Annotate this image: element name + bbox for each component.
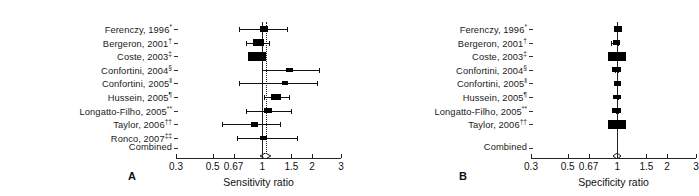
study-label-marker: ‡: [523, 50, 527, 57]
ci-cap-right: [291, 109, 292, 114]
study-label: Coste, 2003‡: [117, 50, 172, 62]
x-axis-tick: [262, 154, 263, 158]
study-label: Taylor, 2006††: [113, 118, 172, 130]
x-axis: [531, 158, 696, 159]
ci-cap-left: [239, 27, 240, 32]
x-axis-tick: [341, 154, 342, 158]
study-label: Hussein, 2005¶: [108, 91, 172, 103]
row-tick: [529, 124, 533, 125]
ci-cap-right: [269, 41, 270, 46]
row-tick: [174, 56, 178, 57]
row-tick: [529, 43, 533, 44]
x-axis-tick-label: 1.5: [639, 161, 653, 172]
row-tick: [529, 29, 533, 30]
x-axis: [176, 158, 341, 159]
row-tick: [529, 83, 533, 84]
ci-cap-right: [280, 122, 281, 127]
study-label-marker: ††: [520, 118, 527, 125]
study-label: Longatto-Filho, 2005**: [435, 105, 527, 117]
row-tick-combined: [529, 148, 533, 149]
row-tick: [174, 111, 178, 112]
study-label-marker: ‡: [168, 50, 172, 57]
study-label-text: Longatto-Filho, 2005: [80, 107, 167, 117]
row-tick: [529, 111, 533, 112]
study-label: Confortini, 2005‖: [457, 77, 527, 89]
panel-letter: A: [128, 170, 136, 182]
x-axis-tick: [213, 154, 214, 158]
study-label-marker: **: [522, 105, 527, 112]
study-label-marker: †: [523, 37, 527, 44]
study-label-text: Confortini, 2004: [101, 66, 168, 76]
study-label-marker: ¶: [168, 91, 172, 98]
x-axis-tick: [176, 154, 177, 158]
study-label-text: Bergeron, 2001: [458, 39, 524, 49]
effect-size-box: [614, 81, 621, 86]
ci-cap-right: [319, 68, 320, 73]
x-axis-tick: [312, 154, 313, 158]
study-label-marker: ‡‡: [165, 132, 172, 139]
study-label: Ferenczy, 1996*: [105, 23, 172, 35]
x-axis-tick: [667, 154, 668, 158]
x-axis-tick-label: 1: [259, 161, 265, 172]
study-label-text: Bergeron, 2001: [103, 39, 169, 49]
study-label-text: Hussein, 2005: [108, 93, 169, 103]
study-label-text: Coste, 2003: [117, 52, 168, 62]
study-label-text: Longatto-Filho, 2005: [435, 107, 522, 117]
forest-plot-figure: Ferenczy, 1996*Bergeron, 2001†Coste, 200…: [0, 0, 699, 196]
study-label: Bergeron, 2001†: [458, 37, 527, 49]
x-axis-tick-label: 0.3: [169, 161, 183, 172]
study-label-marker: ‖: [169, 77, 172, 84]
effect-size-box: [286, 68, 293, 73]
panel-letter: B: [459, 170, 467, 182]
study-label-marker: †: [168, 37, 172, 44]
combined-diamond: [613, 145, 621, 151]
effect-size-box: [253, 39, 265, 46]
study-label-text: Hussein, 2005: [463, 93, 524, 103]
study-label: Longatto-Filho, 2005**: [80, 105, 172, 117]
effect-size-box: [271, 94, 281, 100]
study-label-marker: §: [523, 64, 527, 71]
x-axis-tick-label: 0.5: [206, 161, 220, 172]
effect-size-box: [248, 52, 266, 61]
effect-size-box: [613, 40, 620, 44]
study-label: Taylor, 2006††: [468, 118, 527, 130]
row-tick: [174, 43, 178, 44]
study-label: Confortini, 2004§: [456, 64, 527, 76]
ci-cap-right: [289, 95, 290, 100]
x-axis-tick-label: 0.5: [561, 161, 575, 172]
x-axis-tick: [234, 154, 235, 158]
study-label-marker: ‖: [524, 77, 527, 84]
combined-label: Combined: [129, 142, 172, 152]
effect-size-box: [282, 81, 288, 85]
ci-cap-right: [297, 136, 298, 141]
ci-cap-right: [287, 27, 288, 32]
study-label-text: Coste, 2003: [472, 52, 523, 62]
study-label-text: Ferenczy, 1996: [460, 25, 525, 35]
ci-cap-left: [611, 41, 612, 46]
ci-cap-left: [246, 109, 247, 114]
study-label-marker: §: [168, 64, 172, 71]
study-label-marker: ¶: [523, 91, 527, 98]
x-axis-tick-label: 1: [614, 161, 620, 172]
x-axis-tick: [568, 154, 569, 158]
x-axis-title: Specificity ratio: [578, 176, 649, 188]
confidence-interval: [239, 83, 317, 84]
x-axis-tick: [531, 154, 532, 158]
study-label-text: Taylor, 2006: [113, 120, 164, 130]
row-tick: [174, 124, 178, 125]
row-tick: [174, 83, 178, 84]
study-label: Confortini, 2004§: [101, 64, 172, 76]
row-tick: [529, 56, 533, 57]
x-axis-tick-label: 2: [309, 161, 315, 172]
ci-cap-left: [264, 95, 265, 100]
ci-cap-left: [239, 81, 240, 86]
panel-b: Ferenczy, 1996*Bergeron, 2001†Coste, 200…: [349, 0, 699, 196]
effect-size-box: [264, 108, 272, 113]
x-axis-tick-label: 1.5: [284, 161, 298, 172]
ci-cap-right: [317, 81, 318, 86]
effect-size-box: [260, 136, 267, 140]
study-label-text: Confortini, 2005: [102, 79, 169, 89]
x-axis-tick: [617, 154, 618, 158]
effect-size-box: [608, 52, 626, 61]
study-label-text: Confortini, 2005: [457, 79, 524, 89]
